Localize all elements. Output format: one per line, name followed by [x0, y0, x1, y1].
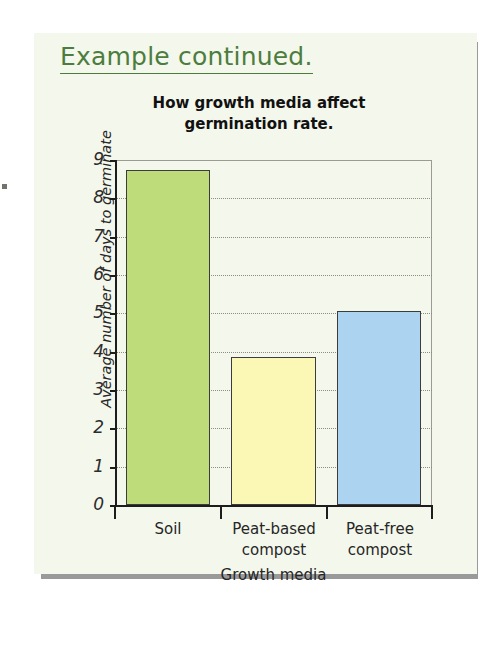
y-tick-9 — [110, 160, 117, 162]
plot-area — [115, 160, 432, 505]
chart-title-line-1: How growth media affect — [104, 93, 414, 114]
bar-chart: How growth media affect germination rate… — [34, 33, 477, 574]
bar-peat-free-compost[interactable] — [337, 311, 422, 505]
x-axis-title: Growth media — [115, 566, 432, 584]
y-tick-4 — [110, 352, 117, 354]
x-category-label-peat-free-compost-line-1: Peat-free — [327, 519, 433, 540]
bar-peat-based-compost[interactable] — [231, 357, 316, 505]
y-tick-3 — [110, 390, 117, 392]
chart-title-line-2: germination rate. — [104, 114, 414, 135]
y-tick-label-5: 5 — [78, 304, 104, 321]
y-tick-label-8: 8 — [78, 189, 104, 206]
x-category-label-soil-line-1: Soil — [115, 519, 221, 540]
x-category-label-peat-based-compost-line-1: Peat-based — [221, 519, 327, 540]
x-category-label-peat-based-compost: Peat-based compost — [221, 519, 327, 561]
scan-artifact-mark — [2, 184, 7, 189]
x-tick-1 — [220, 507, 222, 519]
y-tick-label-2: 2 — [78, 419, 104, 436]
y-tick-label-7: 7 — [78, 228, 104, 245]
x-tick-2 — [326, 507, 328, 519]
y-tick-label-9: 9 — [78, 151, 104, 168]
chart-title: How growth media affect germination rate… — [104, 93, 414, 135]
y-tick-1 — [110, 467, 117, 469]
y-tick-8 — [110, 198, 117, 200]
y-tick-label-6: 6 — [78, 266, 104, 283]
x-tick-end — [431, 507, 433, 519]
y-axis — [115, 160, 117, 506]
x-category-label-peat-free-compost-line-2: compost — [327, 540, 433, 561]
y-tick-label-0: 0 — [78, 496, 104, 513]
y-tick-label-1: 1 — [78, 458, 104, 475]
y-tick-label-4: 4 — [78, 343, 104, 360]
bar-soil[interactable] — [126, 170, 211, 505]
x-tick-start — [114, 507, 116, 519]
slide-canvas: Example continued. How growth media affe… — [34, 33, 477, 574]
x-category-label-peat-free-compost: Peat-free compost — [327, 519, 433, 561]
x-axis — [114, 505, 433, 507]
x-category-label-soil: Soil — [115, 519, 221, 540]
y-tick-5 — [110, 313, 117, 315]
y-tick-2 — [110, 428, 117, 430]
y-tick-7 — [110, 237, 117, 239]
y-tick-label-3: 3 — [78, 381, 104, 398]
y-tick-6 — [110, 275, 117, 277]
x-category-label-peat-based-compost-line-2: compost — [221, 540, 327, 561]
